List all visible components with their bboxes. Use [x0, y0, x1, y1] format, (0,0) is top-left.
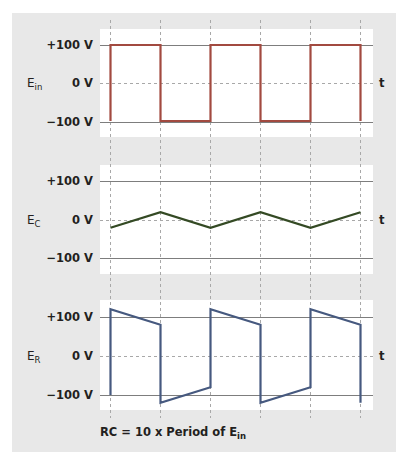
- signal-label: EC: [27, 213, 41, 229]
- y-tick-label: −100 V: [46, 251, 93, 265]
- y-tick-label: −100 V: [46, 115, 93, 129]
- time-axis-label: t: [379, 213, 385, 227]
- y-tick-label: 0 V: [72, 349, 93, 363]
- y-tick-label: 0 V: [72, 76, 93, 90]
- signal-label: Ein: [27, 76, 42, 92]
- rc-caption: RC = 10 x Period of Ein: [100, 425, 246, 441]
- signal-label: ER: [27, 349, 41, 365]
- time-axis-label: t: [379, 76, 385, 90]
- y-tick-label: +100 V: [46, 174, 93, 188]
- y-tick-label: +100 V: [46, 38, 93, 52]
- time-axis-label: t: [379, 349, 385, 363]
- rc-waveform-figure: +100 V0 V−100 VEint+100 V0 V−100 VECt+10…: [0, 0, 409, 459]
- y-tick-label: 0 V: [72, 213, 93, 227]
- y-tick-label: −100 V: [46, 388, 93, 402]
- y-tick-label: +100 V: [46, 310, 93, 324]
